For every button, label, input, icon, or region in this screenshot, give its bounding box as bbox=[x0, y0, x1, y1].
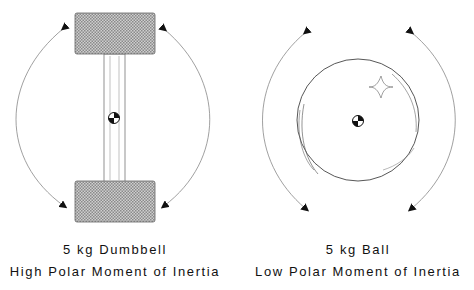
dumbbell-title: 5 kg Dumbbell bbox=[0, 242, 230, 257]
ball bbox=[297, 59, 419, 181]
center-of-mass-icon bbox=[353, 116, 364, 127]
dumbbell-subtitle: High Polar Moment of Inertia bbox=[0, 264, 230, 279]
center-of-mass-icon bbox=[109, 113, 120, 124]
ball-title: 5 kg Ball bbox=[242, 242, 474, 257]
rotation-arrow-left-outer bbox=[16, 28, 64, 206]
dumbbell bbox=[75, 13, 155, 222]
ball-subtitle: Low Polar Moment of Inertia bbox=[242, 264, 474, 279]
dumbbell-top-weight bbox=[75, 13, 155, 54]
rotation-arrow-left-inner bbox=[164, 29, 210, 206]
dumbbell-bottom-weight bbox=[75, 181, 155, 222]
